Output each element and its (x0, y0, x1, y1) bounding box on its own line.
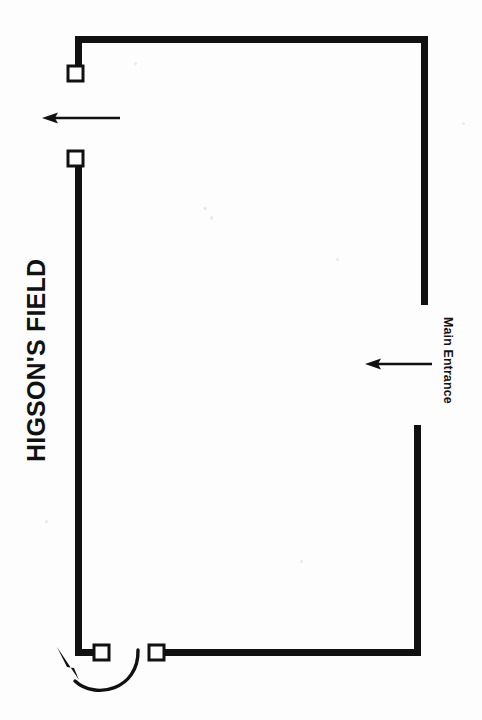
gate-marker-top-left (68, 66, 83, 81)
gate-marker-bottom-outer (149, 645, 164, 660)
gate-marker-bottom-inner (94, 645, 109, 660)
field-label: HIGSON'S FIELD (22, 259, 51, 462)
arrow-group (42, 113, 432, 370)
gate-marker-group (68, 66, 164, 660)
main-entrance-label: Main Entrance (441, 317, 455, 404)
site-plan-diagram: HIGSON'S FIELD Main Entrance (0, 0, 482, 720)
gate-marker-upper-left (68, 151, 83, 166)
main-entrance-arrow (365, 359, 432, 370)
wall-group (75, 36, 428, 656)
plan-drawing (0, 0, 482, 720)
exit-flow-arrow (42, 113, 120, 124)
